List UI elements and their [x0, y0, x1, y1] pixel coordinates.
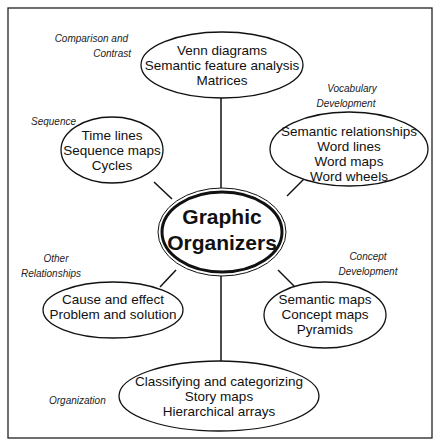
category-label: Relationships — [21, 268, 81, 279]
node-item: Cause and effect — [62, 292, 164, 307]
node-item: Semantic relationships — [281, 124, 417, 139]
graphic-organizers-diagram: Comparison and Contrast Venn diagrams Se… — [0, 0, 438, 441]
category-label: Other — [43, 253, 69, 264]
node-item: Time lines — [81, 128, 142, 143]
node-item: Word lines — [317, 139, 381, 154]
center-title: Organizers — [167, 231, 277, 254]
node-item: Cycles — [92, 158, 133, 173]
center-title: Graphic — [182, 205, 262, 228]
category-label: Development — [317, 98, 377, 109]
category-label: Development — [339, 266, 399, 277]
category-label: Organization — [49, 395, 106, 406]
node-item: Matrices — [196, 73, 247, 88]
node-item: Concept maps — [281, 307, 368, 322]
category-label: Concept — [349, 251, 387, 262]
category-label: Comparison and — [55, 33, 129, 44]
node-item: Venn diagrams — [177, 43, 267, 58]
node-item: Semantic feature analysis — [145, 58, 300, 73]
category-label: Sequence — [31, 116, 76, 127]
node-item: Word wheels — [310, 169, 388, 184]
node-item: Sequence maps — [63, 143, 161, 158]
category-label: Contrast — [93, 48, 132, 59]
node-item: Pyramids — [297, 322, 354, 337]
category-label: Vocabulary — [327, 83, 378, 94]
node-item: Word maps — [315, 154, 384, 169]
node-item: Problem and solution — [50, 307, 177, 322]
node-item: Hierarchical arrays — [163, 404, 276, 419]
center-node: Graphic Organizers — [158, 188, 286, 276]
node-item: Classifying and categorizing — [135, 374, 303, 389]
node-item: Story maps — [185, 389, 254, 404]
node-item: Semantic maps — [278, 292, 371, 307]
